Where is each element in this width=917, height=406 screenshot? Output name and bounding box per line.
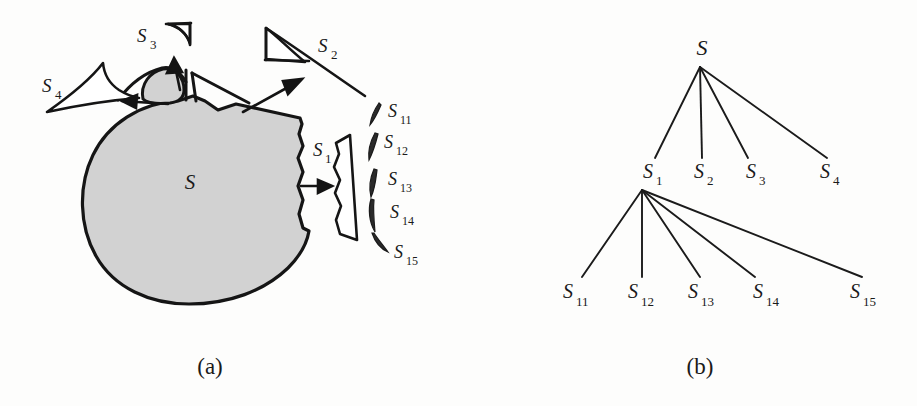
tree-node-S2-label-sub: 2 — [707, 173, 714, 188]
subpiece-S15-label: S — [394, 242, 403, 262]
subpiece-S14-shape — [369, 199, 375, 232]
tree-edge-S-S4 — [700, 67, 827, 158]
tree-node-S12-label-sub: 12 — [641, 294, 654, 309]
tree-node-S1-label: S — [643, 160, 653, 182]
tree-edge-S1-S14 — [642, 190, 755, 277]
tree-node-S14-label: S — [753, 280, 763, 302]
subpiece-S13-label-sub: 13 — [400, 181, 412, 195]
tree-node-S11-label: S — [563, 280, 573, 302]
piece-S4-label-sub: 4 — [55, 87, 62, 102]
tree-node-S2-label: S — [694, 160, 704, 182]
tree-edge-S-S3 — [700, 67, 748, 158]
piece-S1-shape — [334, 135, 357, 240]
subpiece-S11-label: S — [388, 101, 397, 121]
arrow-to-S2-icon — [243, 79, 302, 112]
subpiece-S12-label: S — [384, 132, 393, 152]
tree-node-S4-label-sub: 4 — [833, 173, 840, 188]
piece-S1-label: S — [313, 139, 323, 160]
subpiece-S14-label-sub: 14 — [402, 214, 414, 228]
tree-edge-S-S1 — [655, 67, 700, 158]
subpiece-S13-shape — [370, 169, 377, 197]
subpiece-S11-shape — [370, 103, 381, 125]
subpiece-S13-label: S — [388, 169, 397, 189]
subpiece-S12-label-sub: 12 — [396, 144, 408, 158]
piece-S2-label-sub: 2 — [331, 47, 338, 62]
caption-b: (b) — [687, 354, 714, 379]
piece-S3-label: S — [137, 25, 147, 46]
subpiece-S14-label: S — [390, 202, 399, 222]
piece-S2-label: S — [318, 35, 328, 56]
tree-node-S-label: S — [697, 35, 708, 60]
tree-edge-S1-S13 — [642, 190, 700, 277]
piece-S1-label-sub: 1 — [325, 151, 332, 166]
caption-a: (a) — [197, 354, 223, 379]
tree-node-S15-label-sub: 15 — [863, 294, 876, 309]
panel-b: S S 1 S 2 S 3 S 4 S 11 S 12 — [563, 35, 876, 379]
piece-S3-shape — [168, 24, 190, 43]
tree-edge-S1-S11 — [582, 190, 642, 277]
tree-node-S14-label-sub: 14 — [766, 294, 780, 309]
tree-node-S13-label: S — [688, 280, 698, 302]
piece-S3-edge-h — [166, 23, 191, 24]
tree-edge-S-S2 — [700, 67, 702, 158]
arrow-to-S1-icon — [301, 180, 332, 193]
piece-S2-edge-h — [265, 60, 309, 61]
subpiece-S15-shape — [372, 233, 388, 252]
subpiece-S15-label-sub: 15 — [406, 254, 418, 268]
piece-S3-label-sub: 3 — [150, 37, 157, 52]
tree-node-S15-label: S — [850, 280, 860, 302]
tree-node-S3-label: S — [746, 160, 756, 182]
subpiece-S12-shape — [369, 133, 378, 160]
tree-node-S13-label-sub: 13 — [701, 294, 714, 309]
panel-a: S S 4 S 3 — [42, 23, 418, 379]
figure-container: S S 4 S 3 — [0, 0, 917, 406]
tree-edge-S1-S15 — [642, 190, 862, 277]
tree-node-S3-label-sub: 3 — [759, 173, 766, 188]
subpiece-S11-label-sub: 11 — [400, 113, 412, 127]
tree-node-S1-label-sub: 1 — [656, 173, 663, 188]
region-S-label: S — [185, 170, 196, 194]
piece-S2-curve — [266, 28, 365, 96]
figure-canvas: S S 4 S 3 — [0, 0, 917, 406]
region-S-shape — [82, 96, 309, 304]
tree-node-S4-label: S — [820, 160, 830, 182]
tree-node-S11-label-sub: 11 — [576, 294, 589, 309]
piece-S4-label: S — [42, 75, 52, 96]
tree-node-S12-label: S — [628, 280, 638, 302]
